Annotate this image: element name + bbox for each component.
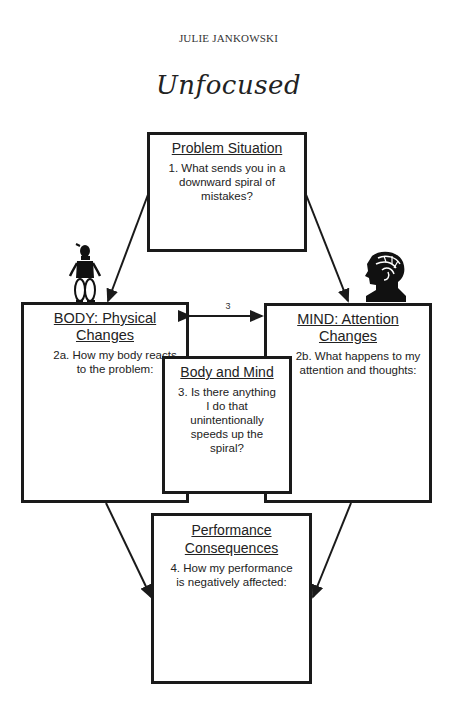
arrow-problem-to-body	[108, 192, 149, 301]
arrow-problem-to-mind	[305, 192, 348, 301]
body-and-mind-box: Body and Mind 3. Is there anything I do …	[162, 356, 292, 494]
arrow-label-body-mind: 3	[220, 301, 236, 311]
person-figure-icon	[70, 244, 100, 301]
body-and-mind-heading: Body and Mind	[165, 364, 289, 381]
head-brain-icon	[365, 252, 406, 302]
body-and-mind-prompt: 3. Is there anything I do that unintenti…	[165, 385, 289, 455]
arrow-mind-to-performance	[313, 503, 351, 597]
arrow-body-to-performance	[106, 503, 151, 597]
